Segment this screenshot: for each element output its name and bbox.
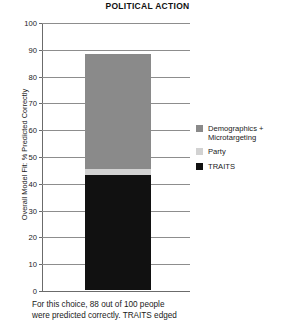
y-tick-label-60: 60 [29,126,37,135]
caption-line-2: were predicted correctly. TRAITS edged [32,311,282,322]
y-axis-label: Overall Model Fit: % Predicted Correctly [20,75,29,235]
legend-label-demographics: Demographics + Microtargeting [208,124,295,142]
tick-mark-30 [39,211,42,212]
legend-item-traits[interactable]: TRAITS [196,162,295,171]
tick-mark-40 [39,184,42,185]
gridline-100 [42,23,190,24]
tick-mark-70 [39,103,42,104]
bar-segment-demographics-microtargeting [85,54,151,169]
chart-caption: For this choice, 88 out of 100 people we… [32,300,282,321]
tick-mark-100 [39,23,42,24]
legend-item-demographics-microtargeting[interactable]: Demographics + Microtargeting [196,124,295,142]
caption-line-1: For this choice, 88 out of 100 people [32,300,282,311]
tick-mark-90 [39,50,42,51]
legend-swatch-icon-party [196,148,203,155]
y-tick-label-40: 40 [29,179,37,188]
chart-title: POLITICAL ACTION [0,1,295,11]
legend-label-traits: TRAITS [208,162,235,171]
y-tick-label-10: 10 [29,260,37,269]
y-tick-label-0: 0 [33,287,37,296]
bar-segments [85,54,151,290]
legend-label-party: Party [208,147,226,156]
legend-item-party[interactable]: Party [196,147,295,156]
y-tick-label-100: 100 [24,19,37,28]
y-tick-label-50: 50 [29,153,37,162]
tick-mark-0 [39,291,42,292]
y-tick-label-70: 70 [29,99,37,108]
y-tick-label-30: 30 [29,206,37,215]
bar-segment-traits [85,175,151,290]
y-tick-label-20: 20 [29,233,37,242]
y-tick-label-90: 90 [29,45,37,54]
chart-legend: Demographics + Microtargeting Party TRAI… [196,124,295,176]
legend-swatch-icon-traits [196,163,203,170]
y-tick-label-80: 80 [29,72,37,81]
tick-mark-60 [39,130,42,131]
stacked-bar[interactable] [85,54,151,290]
tick-mark-50 [39,157,42,158]
gridline-0 [42,291,190,292]
plot-area: 1009080706050403020100 [42,23,190,291]
tick-mark-20 [39,237,42,238]
gridline-90 [42,50,190,51]
tick-mark-80 [39,77,42,78]
tick-mark-10 [39,264,42,265]
legend-swatch-icon-demographics [196,125,203,132]
political-action-chart: POLITICAL ACTION Overall Model Fit: % Pr… [0,0,295,325]
